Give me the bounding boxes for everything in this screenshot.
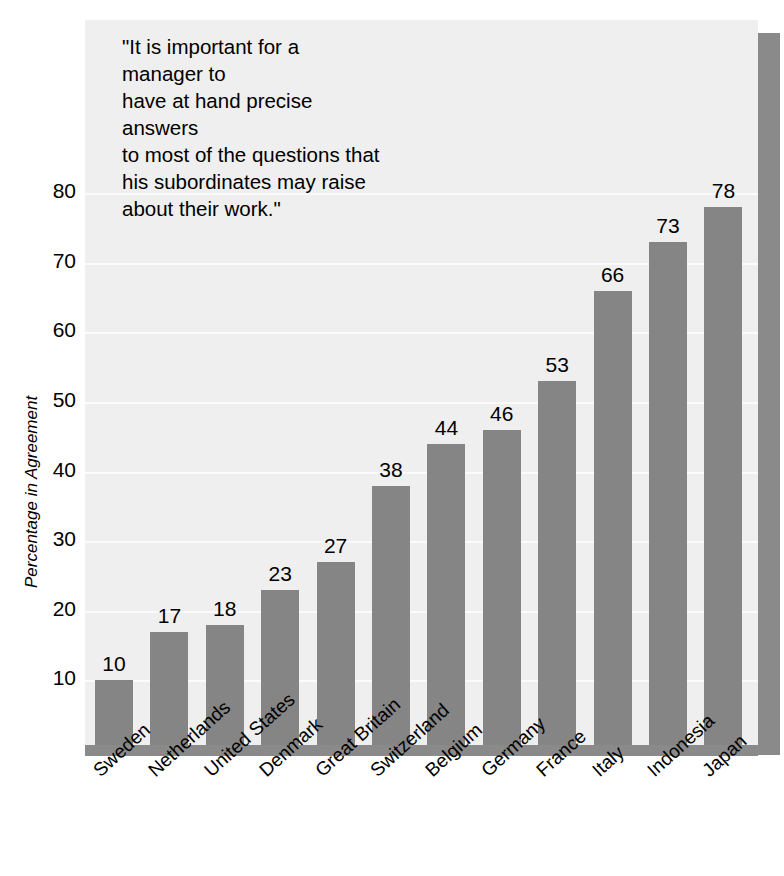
y-axis-tick-label: 60	[30, 318, 76, 342]
y-axis-tick-label: 40	[30, 458, 76, 482]
bar-value-label: 66	[583, 263, 643, 287]
plot-frame-right-wall	[758, 33, 780, 755]
bar-value-label: 23	[250, 562, 310, 586]
y-axis-title: Percentage in Agreement	[22, 396, 42, 588]
bar	[649, 242, 687, 750]
quote-line: his subordinates may raise	[122, 168, 380, 195]
bar	[483, 430, 521, 750]
bar-value-label: 44	[416, 416, 476, 440]
y-axis-tick-label: 70	[30, 249, 76, 273]
survey-question-quote: "It is important for a manager tohave at…	[122, 33, 380, 222]
bar-value-label: 53	[527, 353, 587, 377]
bar-value-label: 73	[638, 214, 698, 238]
bar-value-label: 27	[306, 534, 366, 558]
y-axis-tick-label: 10	[30, 666, 76, 690]
quote-line: "It is important for a manager to	[122, 33, 380, 87]
y-axis-tick-label: 80	[30, 179, 76, 203]
bar-value-label: 17	[139, 604, 199, 628]
bar-value-label: 78	[693, 179, 753, 203]
bar	[594, 291, 632, 750]
quote-line: have at hand precise answers	[122, 87, 380, 141]
bar	[538, 381, 576, 750]
quote-line: about their work."	[122, 195, 380, 222]
bar-value-label: 46	[472, 402, 532, 426]
bar-chart-figure: Percentage in Agreement 1020304050607080…	[0, 0, 784, 876]
bar-value-label: 38	[361, 458, 421, 482]
y-axis-tick-label: 30	[30, 527, 76, 551]
y-axis-tick-label: 50	[30, 388, 76, 412]
y-axis-tick-label: 20	[30, 597, 76, 621]
quote-line: to most of the questions that	[122, 141, 380, 168]
bar	[317, 562, 355, 750]
bar-value-label: 18	[195, 597, 255, 621]
bar-value-label: 10	[84, 652, 144, 676]
bar	[704, 207, 742, 750]
